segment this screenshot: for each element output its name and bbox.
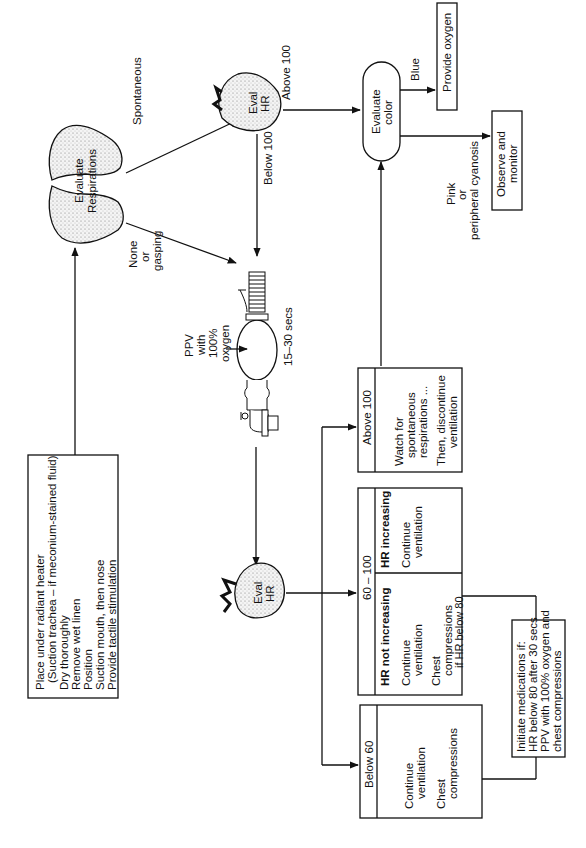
eval-hr-node-2: Eval HR	[222, 563, 284, 618]
medications-line4: chest compressions	[551, 650, 563, 752]
ppv-line2: with	[195, 335, 207, 356]
label-spontaneous: Spontaneous	[131, 57, 143, 125]
initial-step-1: Place under radiant heater	[34, 554, 46, 690]
evaluate-respirations-line2: Respirations	[86, 149, 98, 213]
ppv-line4: oxygen	[219, 325, 231, 362]
above-100-line5: ventilation	[447, 396, 459, 448]
evaluate-color-line1: Evaluate	[370, 89, 382, 134]
initiate-medications-box: Initiate medications if: HR below 80 aft…	[512, 610, 565, 757]
initial-step-6: Suction mouth, then nose	[94, 560, 106, 690]
evaluate-respirations-node: Evaluate Respirations	[49, 125, 123, 243]
below-60-line3: Chest	[435, 778, 447, 809]
hr-increasing-line1: Continue	[400, 522, 412, 568]
label-peripheral-cyanosis: peripheral cyanosis	[468, 141, 480, 240]
hr-increasing-title: HR increasing	[379, 491, 391, 568]
observe-monitor-box: Observe and monitor	[492, 111, 522, 210]
eval-hr-1-line2: HR	[259, 95, 271, 112]
eval-hr-1-line1: Eval	[247, 92, 259, 114]
medications-line1: Initiate medications if:	[515, 641, 527, 752]
hr-not-increasing-line3: Chest	[430, 655, 442, 686]
hr-increasing-line2: ventilation	[412, 506, 424, 558]
label-blue: Blue	[409, 58, 421, 81]
hr-not-increasing-title: HR not increasing	[379, 588, 391, 686]
ppv-line3: 100%	[207, 329, 219, 358]
eval-hr-node-1: Eval HR	[214, 73, 281, 131]
above-100-line1: Watch for	[393, 417, 405, 466]
provide-oxygen-label: Provide oxygen	[441, 13, 453, 92]
resuscitation-flowchart: Place under radiant heater (Suction trac…	[0, 0, 586, 848]
initial-steps-box: Place under radiant heater (Suction trac…	[28, 455, 118, 698]
hr-not-increasing-line2: ventilation	[412, 624, 424, 676]
label-below-100: Below 100	[262, 131, 274, 185]
evaluate-color-line2: color	[382, 100, 394, 125]
below-60-box: Below 60 Continue ventilation Chest comp…	[360, 705, 482, 818]
initial-step-2: (Suction trachea – if meconium-stained f…	[46, 455, 58, 683]
above-100-line3: respirations ...	[417, 386, 429, 458]
medications-line3: PPV with 100% oxygen and	[539, 610, 551, 752]
provide-oxygen-box: Provide oxygen	[437, 3, 457, 110]
label-pink-or: or	[456, 190, 468, 200]
below-60-header: Below 60	[363, 741, 375, 788]
range-60-100-header: 60 – 100	[361, 555, 373, 600]
mask-connector-icon	[241, 410, 278, 436]
bag-icon	[237, 320, 277, 380]
below-60-line2: ventilation	[415, 747, 427, 799]
initial-step-5: Position	[82, 649, 94, 690]
initial-step-7: Provide tactile stimulation	[106, 560, 118, 690]
label-above-100-top: Above 100	[280, 45, 292, 100]
initial-step-4: Remove wet linen	[70, 599, 82, 690]
hr-not-increasing-line5: if HR below 80	[453, 596, 465, 668]
above-100-line4: Then, discontinue	[435, 375, 447, 466]
ppv-line1: PPV	[183, 334, 195, 357]
below-60-line1: Continue	[403, 763, 415, 809]
hr-not-increasing-line1: Continue	[400, 640, 412, 686]
label-none: None	[127, 241, 139, 269]
evaluate-respirations-line1: Evaluate	[73, 158, 85, 203]
ppv-bag-node: PPV with 100% oxygen 15–30 secs	[183, 272, 294, 436]
label-gasping: gasping	[151, 231, 163, 271]
eval-hr-2-line1: Eval	[252, 582, 264, 604]
initial-step-3: Dry thoroughly	[58, 615, 70, 690]
range-60-100-box: 60 – 100 HR not increasing Continue vent…	[358, 488, 465, 695]
evaluate-color-node: Evaluate color	[363, 62, 400, 161]
label-duration: 15–30 secs	[282, 307, 294, 366]
above-100-header: Above 100	[361, 390, 373, 445]
medications-line2: HR below 80 after 30 secs	[527, 617, 539, 752]
observe-monitor-line1: Observe and	[495, 131, 507, 197]
below-60-line4: compressions	[447, 728, 459, 799]
eval-hr-2-line2: HR	[264, 585, 276, 602]
observe-monitor-line2: monitor	[507, 144, 519, 183]
above-100-line2: spontaneous	[405, 392, 417, 458]
arrow-spontaneous	[126, 120, 238, 173]
label-none-or: or	[139, 252, 151, 262]
above-100-box: Above 100 Watch for spontaneous respirat…	[358, 368, 462, 472]
bag-reservoir-icon	[238, 272, 265, 312]
